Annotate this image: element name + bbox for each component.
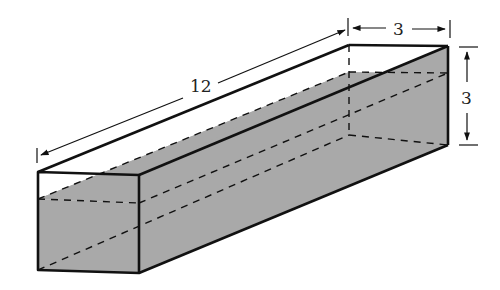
height-label: 3	[461, 88, 472, 108]
length-dimension-line-upper	[218, 30, 345, 83]
length-label: 12	[190, 76, 212, 96]
length-dimension-line-lower	[41, 98, 183, 155]
width-label: 3	[393, 19, 404, 39]
back-top-edge	[349, 45, 448, 46]
tank-diagram: 12 3 3	[0, 0, 500, 290]
liquid	[38, 46, 448, 273]
liquid-front-face	[38, 199, 139, 273]
